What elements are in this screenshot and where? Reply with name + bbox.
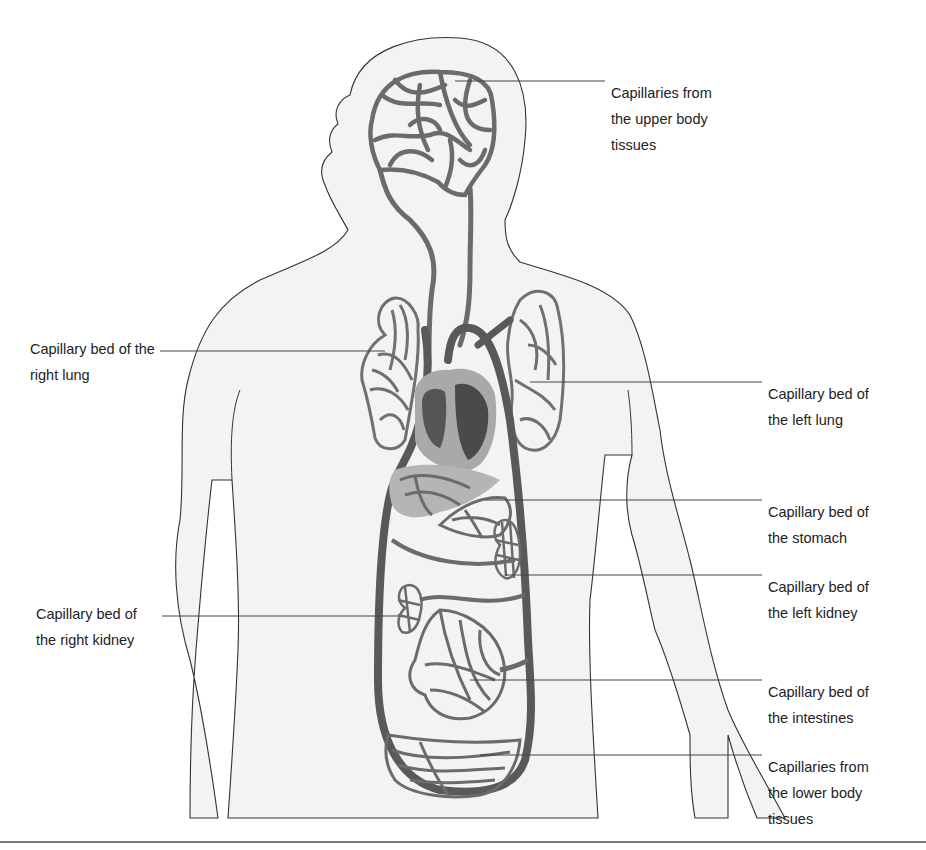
label-line: Capillaries from [611, 87, 712, 100]
label-line: Capillary bed of [768, 581, 869, 594]
label-stomach: Capillary bed of the stomach [768, 493, 869, 558]
label-line: Capillary bed of the [30, 343, 155, 356]
bottom-divider [0, 841, 926, 843]
label-line: Capillary bed of [36, 608, 137, 621]
label-line: the intestines [768, 712, 869, 725]
label-line: the right kidney [36, 634, 137, 647]
label-line: the upper body [611, 113, 712, 126]
label-left-lung: Capillary bed of the left lung [768, 375, 869, 440]
label-right-lung: Capillary bed of the right lung [30, 330, 155, 395]
label-upper-body-capillaries: Capillaries from the upper body tissues [611, 74, 712, 165]
label-line: tissues [611, 139, 712, 152]
label-line: the left kidney [768, 607, 869, 620]
label-line: right lung [30, 369, 155, 382]
label-line: Capillary bed of [768, 686, 869, 699]
label-line: Capillary bed of [768, 506, 869, 519]
label-lower-body-capillaries: Capillaries from the lower body tissues [768, 748, 869, 839]
heart [415, 369, 497, 470]
label-left-kidney: Capillary bed of the left kidney [768, 568, 869, 633]
label-line: the stomach [768, 532, 869, 545]
label-line: tissues [768, 813, 869, 826]
label-line: the left lung [768, 414, 869, 427]
label-line: Capillaries from [768, 761, 869, 774]
label-line: the lower body [768, 787, 869, 800]
label-line: Capillary bed of [768, 388, 869, 401]
label-intestines: Capillary bed of the intestines [768, 673, 869, 738]
label-right-kidney: Capillary bed of the right kidney [36, 595, 137, 660]
